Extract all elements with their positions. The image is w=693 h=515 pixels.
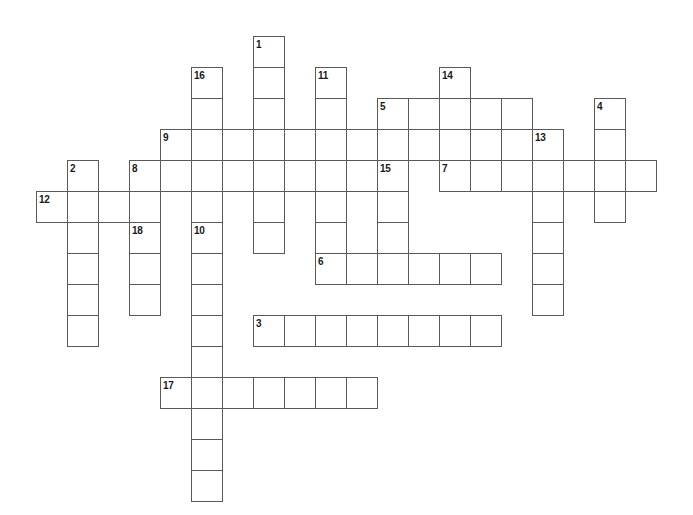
crossword-cell[interactable] <box>377 253 409 285</box>
crossword-cell[interactable] <box>594 98 626 130</box>
crossword-cell[interactable] <box>253 315 285 347</box>
crossword-cell[interactable] <box>470 160 502 192</box>
crossword-cell[interactable] <box>594 160 626 192</box>
crossword-cell[interactable] <box>253 222 285 254</box>
crossword-cell[interactable] <box>67 284 99 316</box>
crossword-cell[interactable] <box>408 98 440 130</box>
crossword-cell[interactable] <box>315 222 347 254</box>
crossword-cell[interactable] <box>377 315 409 347</box>
crossword-cell[interactable] <box>191 98 223 130</box>
crossword-cell[interactable] <box>129 160 161 192</box>
crossword-cell[interactable] <box>253 129 285 161</box>
crossword-cell[interactable] <box>160 160 192 192</box>
crossword-cell[interactable] <box>253 67 285 99</box>
crossword-cell[interactable] <box>253 98 285 130</box>
crossword-cell[interactable] <box>532 284 564 316</box>
crossword-cell[interactable] <box>625 160 657 192</box>
crossword-cell[interactable] <box>253 191 285 223</box>
crossword-cell[interactable] <box>284 160 316 192</box>
crossword-cell[interactable] <box>222 377 254 409</box>
crossword-cell[interactable] <box>563 160 595 192</box>
crossword-cell[interactable] <box>284 129 316 161</box>
crossword-cell[interactable] <box>191 191 223 223</box>
crossword-cell[interactable] <box>253 36 285 68</box>
crossword-cell[interactable] <box>67 191 99 223</box>
crossword-cell[interactable] <box>470 129 502 161</box>
crossword-cell[interactable] <box>439 160 471 192</box>
crossword-cell[interactable] <box>532 191 564 223</box>
crossword-cell[interactable] <box>191 284 223 316</box>
crossword-cell[interactable] <box>315 160 347 192</box>
crossword-cell[interactable] <box>439 253 471 285</box>
crossword-cell[interactable] <box>191 253 223 285</box>
crossword-cell[interactable] <box>191 439 223 471</box>
crossword-cell[interactable] <box>377 160 409 192</box>
crossword-cell[interactable] <box>315 98 347 130</box>
crossword-cell[interactable] <box>191 129 223 161</box>
crossword-cell[interactable] <box>67 160 99 192</box>
crossword-cell[interactable] <box>501 98 533 130</box>
crossword-cell[interactable] <box>315 253 347 285</box>
crossword-cell[interactable] <box>191 346 223 378</box>
crossword-cell[interactable] <box>346 377 378 409</box>
crossword-cell[interactable] <box>532 222 564 254</box>
crossword-cell[interactable] <box>501 160 533 192</box>
crossword-cell[interactable] <box>470 315 502 347</box>
crossword-cell[interactable] <box>67 253 99 285</box>
crossword-cell[interactable] <box>253 160 285 192</box>
crossword-cell[interactable] <box>377 98 409 130</box>
crossword-cell[interactable] <box>346 160 378 192</box>
crossword-puzzle: 116111454913281571218106317 <box>0 0 693 515</box>
crossword-cell[interactable] <box>315 377 347 409</box>
crossword-cell[interactable] <box>98 191 130 223</box>
crossword-cell[interactable] <box>284 315 316 347</box>
crossword-cell[interactable] <box>594 191 626 223</box>
crossword-cell[interactable] <box>191 67 223 99</box>
crossword-cell[interactable] <box>191 315 223 347</box>
crossword-cell[interactable] <box>439 67 471 99</box>
crossword-cell[interactable] <box>222 129 254 161</box>
crossword-cell[interactable] <box>439 129 471 161</box>
crossword-cell[interactable] <box>377 129 409 161</box>
crossword-cell[interactable] <box>191 470 223 502</box>
crossword-cell[interactable] <box>67 315 99 347</box>
crossword-cell[interactable] <box>408 129 440 161</box>
crossword-cell[interactable] <box>594 129 626 161</box>
crossword-cell[interactable] <box>470 253 502 285</box>
crossword-cell[interactable] <box>346 315 378 347</box>
crossword-cell[interactable] <box>315 129 347 161</box>
crossword-cell[interactable] <box>315 67 347 99</box>
crossword-cell[interactable] <box>284 377 316 409</box>
crossword-cell[interactable] <box>129 222 161 254</box>
crossword-cell[interactable] <box>222 160 254 192</box>
crossword-grid[interactable]: 116111454913281571218106317 <box>0 0 693 515</box>
crossword-cell[interactable] <box>408 253 440 285</box>
crossword-cell[interactable] <box>377 222 409 254</box>
crossword-cell[interactable] <box>160 377 192 409</box>
crossword-cell[interactable] <box>377 191 409 223</box>
crossword-cell[interactable] <box>346 253 378 285</box>
crossword-cell[interactable] <box>129 191 161 223</box>
crossword-cell[interactable] <box>129 253 161 285</box>
crossword-cell[interactable] <box>129 284 161 316</box>
crossword-cell[interactable] <box>191 222 223 254</box>
crossword-cell[interactable] <box>315 191 347 223</box>
crossword-cell[interactable] <box>36 191 68 223</box>
crossword-cell[interactable] <box>160 129 192 161</box>
crossword-cell[interactable] <box>315 315 347 347</box>
crossword-cell[interactable] <box>191 160 223 192</box>
crossword-cell[interactable] <box>191 377 223 409</box>
crossword-cell[interactable] <box>346 129 378 161</box>
crossword-cell[interactable] <box>191 408 223 440</box>
crossword-cell[interactable] <box>439 98 471 130</box>
crossword-cell[interactable] <box>439 315 471 347</box>
crossword-cell[interactable] <box>408 315 440 347</box>
crossword-cell[interactable] <box>532 129 564 161</box>
crossword-cell[interactable] <box>67 222 99 254</box>
crossword-cell[interactable] <box>253 377 285 409</box>
crossword-cell[interactable] <box>532 160 564 192</box>
crossword-cell[interactable] <box>470 98 502 130</box>
crossword-cell[interactable] <box>532 253 564 285</box>
crossword-cell[interactable] <box>501 129 533 161</box>
